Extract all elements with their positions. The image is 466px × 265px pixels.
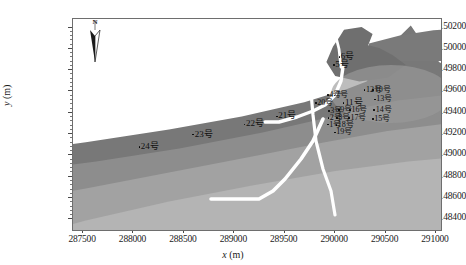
x-tick-label: 291000 <box>409 235 461 245</box>
survey-point-label: 14号 <box>376 105 392 114</box>
y-axis-title-var: y <box>1 102 12 106</box>
survey-point-label: 24号 <box>141 142 159 152</box>
north-arrow-icon <box>84 20 106 62</box>
survey-point[interactable]: 19号 <box>334 128 352 136</box>
survey-point-label: 23号 <box>195 129 213 139</box>
x-axis-title-var: x <box>222 249 226 260</box>
survey-point-label: 22号 <box>246 119 264 129</box>
survey-point[interactable]: 21号 <box>276 111 296 120</box>
survey-point[interactable]: 24号 <box>139 142 159 151</box>
y-axis-title: y (m) <box>1 85 12 106</box>
x-tick-label: 289000 <box>207 235 259 245</box>
road-line-north-spur <box>283 39 285 75</box>
x-tick-label: 290000 <box>308 235 360 245</box>
survey-point[interactable]: 13号 <box>374 95 392 103</box>
plot-area: 1号2号3号4号5号6号7号8号9号10号11号12号13号14号15号16号1… <box>72 18 442 231</box>
survey-point[interactable]: 6号 <box>339 52 355 61</box>
road-line-southeast <box>211 119 323 199</box>
survey-point[interactable]: 22号 <box>244 119 264 128</box>
x-axis-title: x (m) <box>0 249 466 260</box>
survey-point-label: 19号 <box>336 128 352 137</box>
survey-point-label: 20号 <box>317 98 333 107</box>
x-tick-label: 287500 <box>56 235 108 245</box>
x-tick-label: 289500 <box>258 235 310 245</box>
survey-point-label: 6号 <box>341 52 355 62</box>
survey-point[interactable]: 15号 <box>372 115 390 123</box>
survey-point-label: 21号 <box>278 111 296 121</box>
x-axis-title-unit: (m) <box>229 249 243 260</box>
y-axis-title-unit: (m) <box>1 85 12 99</box>
x-tick-label: 288000 <box>106 235 158 245</box>
x-tick-label: 290500 <box>359 235 411 245</box>
survey-point[interactable]: 14号 <box>373 106 391 114</box>
survey-point[interactable]: 12号 <box>364 86 382 94</box>
survey-point-label: 12号 <box>366 85 382 94</box>
survey-point-label: 13号 <box>376 95 392 104</box>
x-tick-label: 288500 <box>157 235 209 245</box>
road-line-branch <box>259 61 287 91</box>
survey-point[interactable]: 23号 <box>192 130 212 139</box>
survey-point-label: 15号 <box>374 114 390 123</box>
survey-point[interactable]: 20号 <box>315 99 333 107</box>
figure-canvas: y (m) x (m) 9148400914860091488009149000… <box>0 0 466 265</box>
